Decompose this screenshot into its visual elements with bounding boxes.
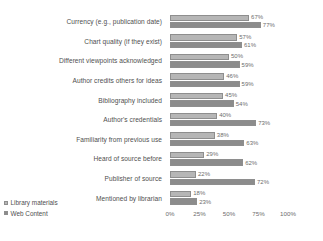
category-label: Publisher of source <box>105 175 166 182</box>
bar-value-label: 59% <box>242 62 254 68</box>
value-axis: 0%25%50%75%100% <box>170 210 288 224</box>
category-axis: Currency (e.g., publication date)Chart q… <box>0 12 166 208</box>
bar-web-content <box>170 81 240 87</box>
bar-library-materials <box>170 113 217 119</box>
category-label: Familiarity from previous use <box>76 136 166 143</box>
bar-value-label: 38% <box>217 132 229 138</box>
bar-value-label: 22% <box>198 171 210 177</box>
bar-library-materials <box>170 73 224 79</box>
bar-web-content <box>170 61 240 67</box>
axis-tick-label: 50% <box>223 210 235 217</box>
category-label-row: Currency (e.g., publication date) <box>0 12 166 32</box>
bar-value-label: 61% <box>244 42 256 48</box>
bar-group: 40%73% <box>170 110 288 130</box>
bar-value-label: 59% <box>242 81 254 87</box>
axis-tick-label: 100% <box>280 210 296 217</box>
bar-web-content <box>170 120 256 126</box>
bar-library-materials <box>170 132 215 138</box>
bar-library-materials <box>170 54 229 60</box>
bar-value-label: 46% <box>226 73 238 79</box>
bar-library-materials <box>170 34 237 40</box>
bar-value-label: 40% <box>219 112 231 118</box>
bar-web-content <box>170 22 261 28</box>
bar-value-label: 23% <box>199 199 211 205</box>
bar-web-content <box>170 140 244 146</box>
bar-value-label: 77% <box>263 22 275 28</box>
legend-swatch-icon <box>4 201 8 205</box>
bar-web-content <box>170 198 197 204</box>
bar-web-content <box>170 42 242 48</box>
category-label: Bibliography included <box>98 97 166 104</box>
plot-area: 67%77%57%61%50%59%46%59%45%54%40%73%38%6… <box>170 12 288 208</box>
bar-value-label: 45% <box>225 92 237 98</box>
bar-value-label: 54% <box>236 101 248 107</box>
category-label: Currency (e.g., publication date) <box>67 18 166 25</box>
legend-label: Library materials <box>11 199 58 206</box>
legend-item: Library materials <box>4 198 58 207</box>
bar-library-materials <box>170 93 223 99</box>
legend-item: Web Content <box>4 209 58 218</box>
category-label-row: Publisher of source <box>0 169 166 189</box>
bar-value-label: 29% <box>206 151 218 157</box>
bar-group: 18%23% <box>170 188 288 208</box>
bar-value-label: 57% <box>239 34 251 40</box>
bar-group: 67%77% <box>170 12 288 32</box>
category-label-row: Author's credentials <box>0 110 166 130</box>
category-label: Mentioned by librarian <box>96 195 166 202</box>
bar-value-label: 18% <box>193 190 205 196</box>
category-label-row: Author credits others for ideas <box>0 71 166 91</box>
category-label-row: Bibliography included <box>0 90 166 110</box>
bar-web-content <box>170 179 255 185</box>
bar-web-content <box>170 100 234 106</box>
category-label: Author credits others for ideas <box>72 77 166 84</box>
category-label-row: Chart quality (if they exist) <box>0 32 166 52</box>
category-label-row: Familiarity from previous use <box>0 130 166 150</box>
axis-tick-label: 25% <box>193 210 205 217</box>
bar-web-content <box>170 159 243 165</box>
bar-group: 46%59% <box>170 71 288 91</box>
bar-group: 29%62% <box>170 149 288 169</box>
legend-swatch-icon <box>4 211 8 215</box>
bar-value-label: 63% <box>246 140 258 146</box>
bar-chart: Currency (e.g., publication date)Chart q… <box>0 0 323 241</box>
bar-value-label: 73% <box>258 120 270 126</box>
category-label: Chart quality (if they exist) <box>84 38 166 45</box>
bar-group: 22%72% <box>170 169 288 189</box>
bar-value-label: 50% <box>231 53 243 59</box>
bar-library-materials <box>170 15 249 21</box>
category-label: Author's credentials <box>103 116 166 123</box>
legend-label: Web Content <box>11 210 48 217</box>
bar-group: 45%54% <box>170 90 288 110</box>
bar-value-label: 62% <box>245 160 257 166</box>
chart-legend: Library materialsWeb Content <box>4 198 58 219</box>
bar-value-label: 67% <box>251 14 263 20</box>
bar-library-materials <box>170 191 191 197</box>
axis-tick-label: 75% <box>252 210 264 217</box>
category-label: Heard of source before <box>93 155 166 162</box>
axis-tick-label: 0% <box>166 210 175 217</box>
category-label-row: Heard of source before <box>0 149 166 169</box>
category-label: Different viewpoints acknowledged <box>59 57 166 64</box>
bar-library-materials <box>170 152 204 158</box>
bar-group: 38%63% <box>170 130 288 150</box>
bar-value-label: 72% <box>257 179 269 185</box>
bar-group: 50%59% <box>170 51 288 71</box>
bar-group: 57%61% <box>170 32 288 52</box>
category-label-row: Different viewpoints acknowledged <box>0 51 166 71</box>
bar-library-materials <box>170 171 196 177</box>
